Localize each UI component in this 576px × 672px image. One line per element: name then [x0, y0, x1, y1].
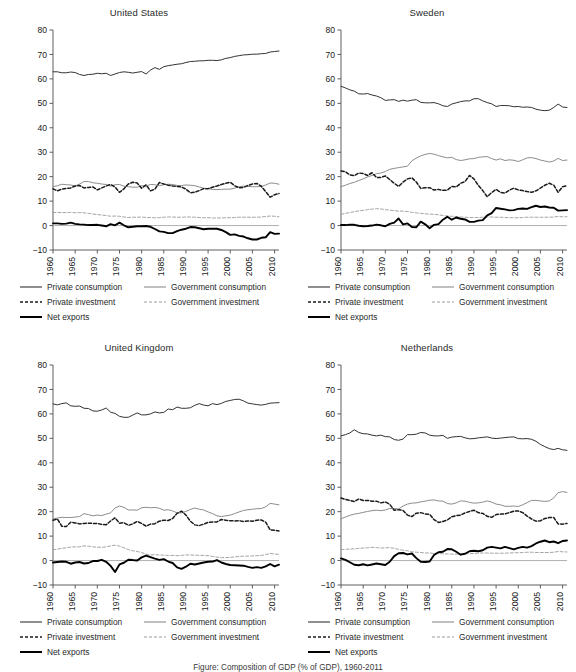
series-line: [341, 492, 567, 519]
legend-item-private-consumption: Private consumption: [20, 283, 144, 291]
svg-text:80: 80: [37, 25, 47, 35]
svg-text:1985: 1985: [444, 257, 454, 276]
svg-text:80: 80: [325, 25, 335, 35]
legend-item-private-investment: Private investment: [20, 633, 144, 641]
legend-label: Private consumption: [335, 618, 410, 626]
svg-text:40: 40: [37, 123, 47, 133]
legend-item-private-consumption: Private consumption: [308, 283, 432, 291]
plot-area-united-states: −100102030405060708019601965197019751980…: [0, 22, 288, 277]
svg-text:70: 70: [325, 50, 335, 60]
legend-sweden: Private consumption Government consumpti…: [308, 280, 576, 325]
legend-label: Private investment: [335, 298, 403, 306]
svg-text:2000: 2000: [222, 592, 232, 611]
svg-text:1960: 1960: [333, 592, 343, 611]
svg-text:1990: 1990: [466, 592, 476, 611]
svg-text:2005: 2005: [532, 592, 542, 611]
panel-title: United States: [0, 7, 278, 18]
legend-label: Government consumption: [171, 283, 266, 291]
svg-text:1965: 1965: [67, 592, 77, 611]
svg-text:2000: 2000: [222, 257, 232, 276]
legend-label: Private investment: [335, 633, 403, 641]
plot-area-united-kingdom: −100102030405060708019601965197019751980…: [0, 357, 288, 612]
series-line: [341, 209, 567, 218]
svg-text:1995: 1995: [200, 592, 210, 611]
line-solid-thin-dark-icon: [308, 283, 330, 291]
legend-label: Government investment: [171, 298, 259, 306]
svg-text:2005: 2005: [532, 257, 542, 276]
svg-text:20: 20: [37, 172, 47, 182]
svg-text:60: 60: [37, 74, 47, 84]
legend-label: Private consumption: [335, 283, 410, 291]
legend-united-states: Private consumption Government consumpti…: [20, 280, 288, 325]
legend-row: Private consumption Government consumpti…: [20, 615, 288, 630]
svg-text:10: 10: [325, 531, 335, 541]
legend-item-private-consumption: Private consumption: [20, 618, 144, 626]
svg-text:1995: 1995: [488, 592, 498, 611]
svg-text:2010: 2010: [267, 592, 277, 611]
svg-text:2010: 2010: [267, 257, 277, 276]
svg-text:0: 0: [42, 221, 47, 231]
svg-text:0: 0: [330, 221, 335, 231]
line-solid-bold-black-icon: [20, 648, 42, 656]
svg-text:−10: −10: [32, 245, 47, 255]
line-solid-thin-dark-icon: [20, 283, 42, 291]
svg-text:10: 10: [37, 196, 47, 206]
line-dashed-thin-gray-icon: [144, 633, 166, 641]
panel-title: Netherlands: [288, 342, 566, 353]
svg-text:70: 70: [325, 385, 335, 395]
plot-area-netherlands: −100102030405060708019601965197019751980…: [288, 357, 576, 612]
legend-item-government-consumption: Government consumption: [144, 618, 266, 626]
svg-text:80: 80: [325, 360, 335, 370]
legend-item-net-exports: Net exports: [308, 648, 432, 656]
svg-text:50: 50: [325, 98, 335, 108]
legend-row: Private investment Government investment: [20, 630, 288, 645]
line-solid-thin-gray-icon: [432, 618, 454, 626]
legend-label: Private investment: [47, 298, 115, 306]
svg-text:−10: −10: [320, 245, 335, 255]
line-solid-thin-dark-icon: [20, 618, 42, 626]
svg-text:0: 0: [330, 556, 335, 566]
svg-text:1990: 1990: [178, 257, 188, 276]
legend-item-government-consumption: Government consumption: [432, 618, 554, 626]
svg-text:1970: 1970: [377, 592, 387, 611]
svg-text:1980: 1980: [134, 592, 144, 611]
svg-text:70: 70: [37, 50, 47, 60]
svg-text:50: 50: [325, 433, 335, 443]
svg-text:40: 40: [325, 458, 335, 468]
series-line: [341, 541, 567, 566]
series-line: [53, 212, 279, 218]
svg-text:20: 20: [325, 172, 335, 182]
legend-item-net-exports: Net exports: [20, 313, 144, 321]
series-line: [341, 430, 567, 451]
line-dashed-bold-dark-icon: [20, 298, 42, 306]
series-line: [53, 503, 279, 519]
legend-item-government-consumption: Government consumption: [432, 283, 554, 291]
panel-title: United Kingdom: [0, 342, 278, 353]
line-solid-thin-gray-icon: [144, 283, 166, 291]
legend-item-government-investment: Government investment: [144, 633, 259, 641]
svg-text:10: 10: [37, 531, 47, 541]
svg-text:2010: 2010: [555, 257, 565, 276]
line-solid-thin-dark-icon: [308, 618, 330, 626]
line-solid-thin-gray-icon: [144, 618, 166, 626]
svg-text:1995: 1995: [200, 257, 210, 276]
legend-label: Government investment: [459, 633, 547, 641]
svg-text:1990: 1990: [466, 257, 476, 276]
legend-label: Government investment: [171, 633, 259, 641]
panel-title: Sweden: [288, 7, 566, 18]
legend-row: Private investment Government investment: [308, 630, 576, 645]
legend-label: Government consumption: [171, 618, 266, 626]
legend-item-net-exports: Net exports: [308, 313, 432, 321]
legend-row: Net exports: [308, 645, 576, 660]
legend-item-private-investment: Private investment: [308, 298, 432, 306]
svg-text:1985: 1985: [156, 592, 166, 611]
plot-svg: −100102030405060708019601965197019751980…: [288, 357, 576, 612]
legend-label: Net exports: [335, 648, 377, 656]
legend-united-kingdom: Private consumption Government consumpti…: [20, 615, 288, 660]
svg-text:1965: 1965: [355, 257, 365, 276]
legend-label: Government consumption: [459, 283, 554, 291]
legend-item-net-exports: Net exports: [20, 648, 144, 656]
line-solid-bold-black-icon: [20, 313, 42, 321]
